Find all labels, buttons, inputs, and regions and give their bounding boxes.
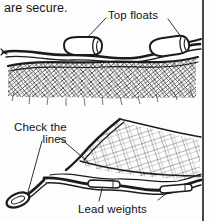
left-weight <box>88 180 120 188</box>
callout-check-the-lines-line2: lines <box>43 133 67 145</box>
right-float <box>150 36 189 56</box>
headrope-right-tail <box>189 39 201 42</box>
rope-eye <box>4 180 46 211</box>
figures-canvas <box>0 0 210 221</box>
left-float <box>64 37 102 55</box>
illustration-page: are secure. Top floats Check thelines Le… <box>0 0 210 221</box>
callout-check-the-lines: Check thelines <box>14 121 67 145</box>
callout-top-floats: Top floats <box>108 9 158 21</box>
right-weight <box>160 184 192 193</box>
leader-line-top-floats-left <box>86 18 106 39</box>
body-text-continuation: are secure. <box>4 2 68 15</box>
callout-lead-weights: Lead weights <box>78 203 147 215</box>
callout-check-the-lines-line1: Check the <box>14 121 67 133</box>
top-figure <box>0 18 210 114</box>
